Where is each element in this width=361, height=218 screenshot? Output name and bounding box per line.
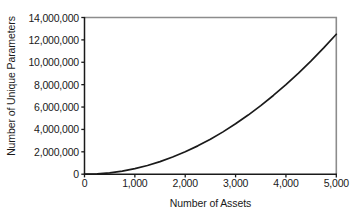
- chart-figure: Number of Unique Parameters 02,000,0004,…: [0, 0, 361, 218]
- plot-background: [84, 17, 337, 174]
- plot-area: [0, 0, 361, 218]
- x-axis-title: Number of Assets: [84, 197, 337, 209]
